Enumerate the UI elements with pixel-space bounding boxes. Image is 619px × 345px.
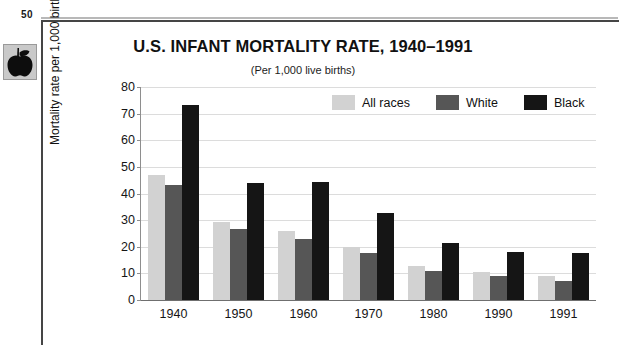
chart-subtitle: (Per 1,000 live births) bbox=[43, 64, 563, 76]
bar bbox=[442, 243, 459, 300]
bar bbox=[408, 266, 425, 300]
x-tick-label: 1940 bbox=[160, 307, 188, 321]
bar bbox=[278, 231, 295, 300]
y-tick-label: 70 bbox=[121, 107, 135, 121]
bar bbox=[247, 183, 264, 300]
bar bbox=[360, 253, 377, 300]
bar-group: 1991 bbox=[531, 87, 596, 300]
bar-group: 1990 bbox=[466, 87, 531, 300]
page-number: 50 bbox=[21, 9, 33, 20]
bar bbox=[490, 276, 507, 300]
bar bbox=[312, 182, 329, 300]
x-tick-label: 1960 bbox=[290, 307, 318, 321]
y-tick-mark bbox=[137, 300, 141, 301]
x-tick-label: 1991 bbox=[550, 307, 578, 321]
bar bbox=[148, 175, 165, 300]
bar bbox=[572, 253, 589, 300]
y-tick-label: 40 bbox=[121, 187, 135, 201]
plot-area: 0102030405060708019401950196019701980199… bbox=[140, 87, 596, 301]
bar bbox=[538, 276, 555, 300]
figure-frame: U.S. INFANT MORTALITY RATE, 1940–1991 (P… bbox=[41, 20, 619, 345]
bar-group: 1960 bbox=[271, 87, 336, 300]
bar bbox=[555, 281, 572, 300]
bar bbox=[182, 105, 199, 300]
bar bbox=[377, 213, 394, 300]
y-tick-label: 80 bbox=[121, 80, 135, 94]
y-tick-label: 10 bbox=[121, 266, 135, 280]
y-tick-label: 20 bbox=[121, 240, 135, 254]
y-axis-title: Mortality rate per 1,000 births bbox=[48, 0, 62, 145]
x-tick-label: 1950 bbox=[225, 307, 253, 321]
x-tick-label: 1990 bbox=[485, 307, 513, 321]
bar bbox=[507, 252, 524, 300]
bar-group: 1940 bbox=[141, 87, 206, 300]
y-tick-label: 60 bbox=[121, 133, 135, 147]
bar-group: 1970 bbox=[336, 87, 401, 300]
bar-group: 1980 bbox=[401, 87, 466, 300]
bar bbox=[343, 247, 360, 300]
bar bbox=[473, 272, 490, 300]
x-tick-label: 1970 bbox=[355, 307, 383, 321]
y-tick-label: 50 bbox=[121, 160, 135, 174]
y-tick-label: 30 bbox=[121, 213, 135, 227]
bar bbox=[165, 185, 182, 300]
plot-wrapper: Mortality rate per 1,000 births All race… bbox=[70, 87, 600, 342]
y-tick-label: 0 bbox=[128, 293, 135, 307]
bar bbox=[230, 229, 247, 300]
bar bbox=[425, 271, 442, 300]
bar bbox=[213, 222, 230, 300]
x-tick-label: 1980 bbox=[420, 307, 448, 321]
apple-icon bbox=[3, 44, 37, 80]
bar bbox=[295, 239, 312, 300]
chart-title: U.S. INFANT MORTALITY RATE, 1940–1991 bbox=[43, 37, 563, 56]
bar-group: 1950 bbox=[206, 87, 271, 300]
header-rule bbox=[41, 17, 618, 19]
